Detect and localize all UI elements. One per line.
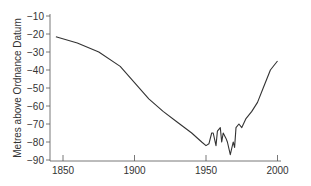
y-tick-label: −80 [27, 137, 44, 148]
axes [50, 14, 281, 161]
x-tick-label: 1900 [123, 165, 146, 176]
y-tick-label: −30 [27, 47, 44, 58]
y-ticks: −10−20−30−40−50−60−70−80−90 [27, 11, 50, 166]
y-tick-label: −20 [27, 29, 44, 40]
x-ticks: 1850190019502000 [52, 155, 289, 176]
y-tick-label: −10 [27, 11, 44, 22]
x-tick-label: 2000 [266, 165, 289, 176]
data-line [56, 37, 278, 155]
y-tick-label: −70 [27, 119, 44, 130]
y-tick-label: −40 [27, 65, 44, 76]
y-tick-label: −90 [27, 155, 44, 166]
x-tick-label: 1850 [52, 165, 75, 176]
x-tick-label: 1950 [195, 165, 218, 176]
line-chart: −10−20−30−40−50−60−70−80−90 185019001950… [0, 0, 311, 186]
y-tick-label: −50 [27, 83, 44, 94]
y-tick-label: −60 [27, 101, 44, 112]
y-axis-label: Metres above Ordnance Datum [12, 18, 23, 158]
